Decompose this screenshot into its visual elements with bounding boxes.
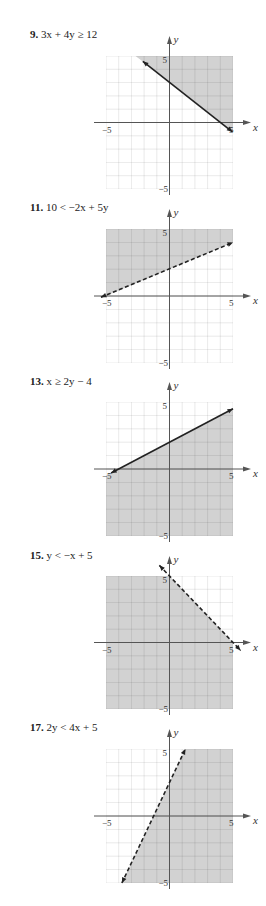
x-tick-label: −5 [102,818,112,828]
inequality-graph: xy−555−5 [0,0,266,906]
y-axis-label: y [173,726,179,738]
x-tick-label: 5 [229,818,234,828]
y-axis-arrow-icon [167,729,172,737]
y-tick-label: −5 [159,878,169,888]
x-axis-arrow-icon [243,814,251,819]
y-tick-label: 5 [163,748,168,758]
x-axis-label: x [252,814,258,826]
